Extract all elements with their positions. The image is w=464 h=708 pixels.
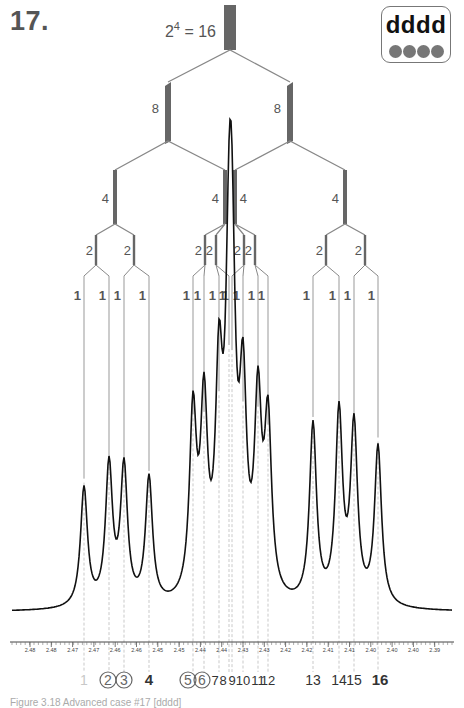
axis-tick-label: 2.43 — [238, 647, 249, 653]
line-number-label: 1 — [80, 672, 88, 688]
root-bar — [224, 5, 236, 50]
level2-bar — [95, 235, 97, 265]
level2-bar — [215, 235, 217, 265]
level8-split-line — [235, 141, 345, 170]
level2-split-line — [124, 265, 149, 276]
line-number-label: 14 — [331, 672, 347, 688]
coupling-tree-and-spectrum: 24 = 168844442222222211111111111111112.4… — [0, 0, 464, 708]
axis-tick-label: 2.39 — [429, 647, 440, 653]
line-number-label: 2 — [104, 672, 112, 688]
level8-split-line — [115, 141, 225, 170]
axis-tick-label: 2.45 — [174, 647, 185, 653]
line-number-label: 12 — [261, 673, 275, 688]
level4-bar — [343, 170, 347, 224]
level2-split-line — [313, 265, 339, 276]
level2-label: 2 — [206, 243, 213, 258]
level2-bar — [133, 235, 135, 265]
line-number-label: 13 — [305, 672, 321, 688]
leaf-label: 1 — [368, 288, 375, 303]
level2-split-line — [193, 265, 205, 276]
axis-tick-label: 2.42 — [302, 647, 313, 653]
line-number-label: 6 — [198, 672, 206, 688]
leaf-label: 1 — [139, 288, 146, 303]
root-split-line — [168, 50, 290, 82]
level8-label: 8 — [274, 101, 281, 116]
level8-bar — [287, 82, 293, 144]
leaf-label: 1 — [258, 288, 265, 303]
level2-split-line — [354, 265, 378, 276]
axis-tick-label: 2.43 — [259, 647, 270, 653]
line-number-label: 3 — [120, 672, 128, 688]
level4-split-line — [96, 224, 134, 235]
axis-tick-label: 2.46 — [131, 647, 142, 653]
axis-tick-label: 2.47 — [89, 647, 100, 653]
root-label: 24 = 16 — [165, 20, 216, 40]
level8-bar — [165, 82, 171, 144]
level2-bar — [254, 235, 256, 265]
line-number-label: 8 — [219, 673, 226, 688]
axis-tick-label: 2.42 — [280, 647, 291, 653]
leaf-label: 1 — [303, 288, 310, 303]
leaf-label: 1 — [194, 288, 201, 303]
leaf-label: 1 — [344, 288, 351, 303]
figure-caption: Figure 3.18 Advanced case #17 [dddd] — [10, 697, 181, 708]
axis-tick-label: 2.48 — [25, 647, 36, 653]
axis-tick-label: 2.44 — [216, 647, 227, 653]
line-number-label: 16 — [372, 671, 389, 688]
leaf-label: 1 — [209, 288, 216, 303]
level4-label: 4 — [240, 191, 247, 206]
axis-tick-label: 2.45 — [152, 647, 163, 653]
axis-tick-label: 2.41 — [323, 647, 334, 653]
level4-label: 4 — [212, 191, 219, 206]
level4-label: 4 — [102, 191, 109, 206]
level4-label: 4 — [332, 191, 339, 206]
axis-tick-label: 2.40 — [387, 647, 398, 653]
level2-label: 2 — [316, 243, 323, 258]
level4-split-line — [235, 224, 255, 235]
leaf-label: 1 — [329, 288, 336, 303]
level2-label: 2 — [245, 243, 252, 258]
level2-label: 2 — [195, 243, 202, 258]
leaf-label: 1 — [99, 288, 106, 303]
level4-split-line — [205, 224, 225, 235]
level2-label: 2 — [124, 243, 131, 258]
leaf-label: 1 — [233, 288, 240, 303]
axis-tick-label: 2.40 — [408, 647, 419, 653]
level2-split-line — [84, 265, 109, 276]
axis-tick-label: 2.40 — [365, 647, 376, 653]
axis-tick-label: 2.44 — [195, 647, 206, 653]
leaf-label: 1 — [74, 288, 81, 303]
line-number-label: 9 — [228, 673, 235, 688]
level4-bar — [223, 170, 227, 224]
level4-bar — [113, 170, 117, 224]
leaf-label: 1 — [248, 288, 255, 303]
level8-label: 8 — [152, 101, 159, 116]
axis-tick-label: 2.48 — [46, 647, 57, 653]
axis-tick-label: 2.41 — [344, 647, 355, 653]
line-number-label: 4 — [145, 671, 154, 688]
level4-split-line — [326, 224, 365, 235]
level2-label: 2 — [86, 243, 93, 258]
level2-label: 2 — [355, 243, 362, 258]
line-number-label: 7 — [211, 673, 218, 688]
line-number-label: 5 — [184, 672, 192, 688]
level2-split-line — [255, 265, 268, 276]
leaf-label: 1 — [114, 288, 121, 303]
line-number-label: 15 — [346, 672, 362, 688]
line-number-label: 10 — [236, 673, 250, 688]
level2-bar — [325, 235, 327, 265]
axis-tick-label: 2.47 — [67, 647, 78, 653]
axis-tick-label: 2.46 — [110, 647, 121, 653]
level2-bar — [364, 235, 366, 265]
leaf-label: 1 — [183, 288, 190, 303]
